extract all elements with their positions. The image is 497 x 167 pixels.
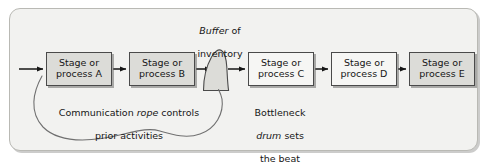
rope-caption-pre: Communication xyxy=(59,107,137,118)
stage-label-a: Stage or process A xyxy=(56,58,102,79)
diagram-figure: Stage or process A Stage or process B St… xyxy=(0,0,497,167)
stage-label-b: Stage or process B xyxy=(139,58,185,79)
stage-box-e[interactable]: Stage or process E xyxy=(409,52,475,86)
drum-caption: Bottleneck drum sets the beat xyxy=(237,96,323,164)
stage-label-e: Stage or process E xyxy=(419,58,465,79)
rope-caption-italic: rope xyxy=(137,107,159,118)
rope-caption: Communication rope controls prior activi… xyxy=(48,96,210,142)
buffer-caption-italic: Buffer xyxy=(199,25,228,36)
stage-label-c: Stage or process C xyxy=(258,58,304,79)
rope-caption-line2: prior activities xyxy=(95,130,163,141)
buffer-caption-rest: of xyxy=(228,25,240,36)
buffer-caption-line2: inventory xyxy=(197,48,242,59)
drum-caption-post: sets xyxy=(281,130,304,141)
stage-box-a[interactable]: Stage or process A xyxy=(46,52,112,86)
stage-box-d[interactable]: Stage or process D xyxy=(331,52,397,86)
buffer-caption: Buffer of inventory xyxy=(177,14,263,60)
drum-caption-line3: the beat xyxy=(260,153,300,164)
rope-caption-post: controls xyxy=(158,107,199,118)
drum-caption-line1: Bottleneck xyxy=(255,107,306,118)
drum-caption-italic: drum xyxy=(256,130,281,141)
stage-label-d: Stage or process D xyxy=(341,58,388,79)
